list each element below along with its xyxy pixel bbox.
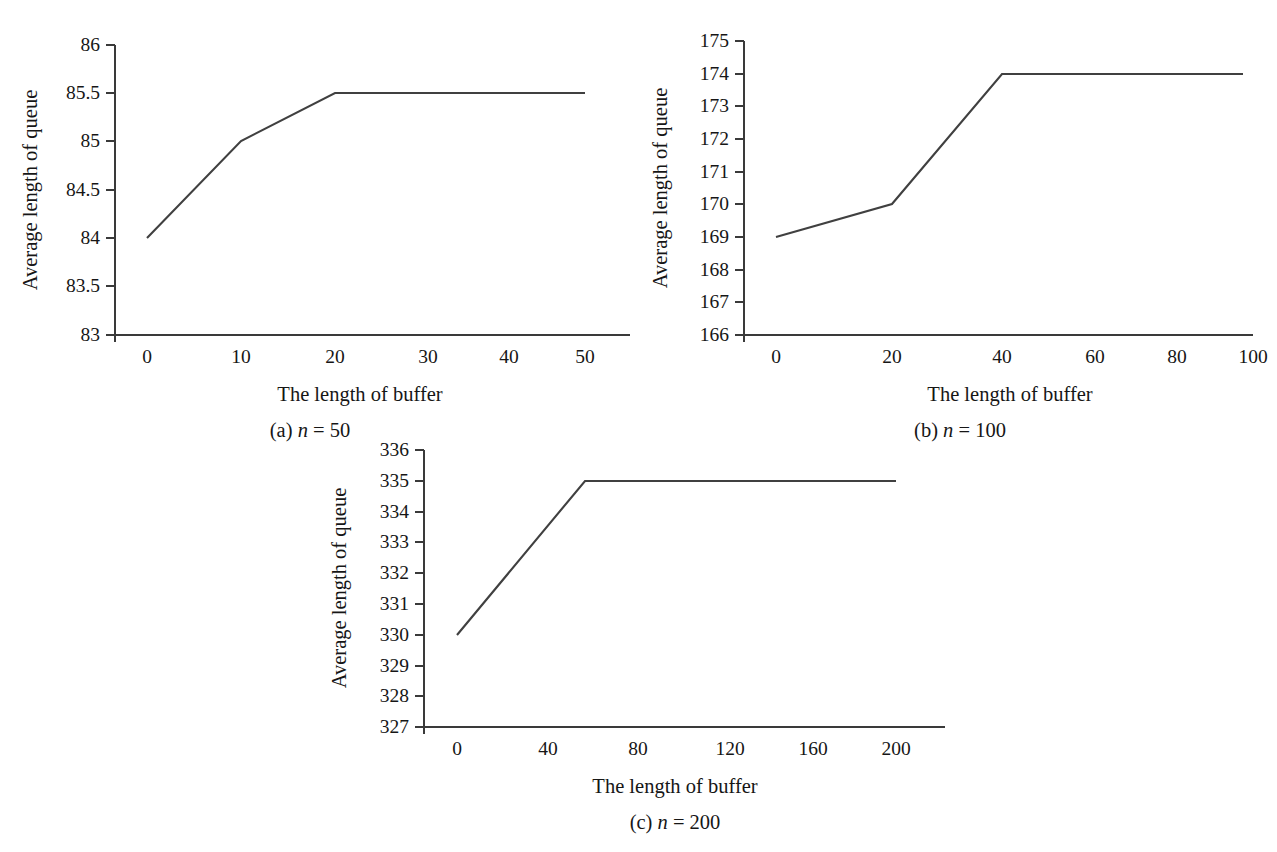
x-axis-title: The length of buffer bbox=[927, 383, 1092, 406]
x-tick-label: 40 bbox=[992, 347, 1012, 367]
y-axis-title: Average length of queue bbox=[19, 90, 42, 291]
caption-prefix: (c) bbox=[630, 811, 653, 833]
y-axis-ticks-a bbox=[106, 45, 115, 335]
y-tick-label: 167 bbox=[673, 292, 729, 312]
chart-panel-c: 336 335 334 333 332 331 330 329 328 327 … bbox=[310, 428, 970, 848]
caption-variable: n bbox=[298, 419, 308, 441]
caption-prefix: (a) bbox=[270, 419, 293, 441]
y-tick-label: 334 bbox=[353, 502, 409, 522]
y-tick-label: 169 bbox=[673, 227, 729, 247]
y-tick-label: 168 bbox=[673, 260, 729, 280]
y-tick-label: 175 bbox=[673, 31, 729, 51]
y-tick-label: 331 bbox=[353, 594, 409, 614]
x-axis-title: The length of buffer bbox=[592, 775, 757, 798]
y-tick-label: 83.5 bbox=[44, 276, 100, 296]
x-tick-label: 40 bbox=[538, 739, 558, 759]
x-tick-label: 0 bbox=[452, 739, 462, 759]
x-tick-label: 30 bbox=[418, 347, 438, 367]
x-tick-label: 0 bbox=[142, 347, 152, 367]
caption-value: 100 bbox=[975, 419, 1006, 441]
y-tick-label: 327 bbox=[353, 717, 409, 737]
y-tick-label: 85 bbox=[44, 131, 100, 151]
y-tick-label: 84 bbox=[44, 228, 100, 248]
x-tick-label: 80 bbox=[1167, 347, 1187, 367]
x-axis-title: The length of buffer bbox=[277, 383, 442, 406]
y-tick-label: 172 bbox=[673, 129, 729, 149]
data-line-a bbox=[147, 93, 585, 238]
y-tick-label: 86 bbox=[44, 35, 100, 55]
x-tick-label: 160 bbox=[798, 739, 827, 759]
y-tick-label: 332 bbox=[353, 563, 409, 583]
caption-value: 200 bbox=[690, 811, 721, 833]
x-tick-label: 120 bbox=[715, 739, 744, 759]
y-tick-label: 170 bbox=[673, 194, 729, 214]
y-tick-label: 329 bbox=[353, 656, 409, 676]
y-axis-ticks-b bbox=[735, 41, 744, 335]
x-tick-label: 20 bbox=[882, 347, 902, 367]
y-tick-label: 171 bbox=[673, 162, 729, 182]
panel-caption-c: (c) n = 200 bbox=[630, 811, 721, 834]
x-tick-label: 80 bbox=[628, 739, 648, 759]
y-tick-label: 83 bbox=[44, 325, 100, 345]
chart-panel-b: 175 174 173 172 171 170 169 168 167 166 … bbox=[640, 14, 1277, 414]
x-tick-label: 0 bbox=[771, 347, 781, 367]
y-tick-label: 333 bbox=[353, 532, 409, 552]
chart-panel-a: 86 85.5 85 84.5 84 83.5 83 0 10 20 30 40… bbox=[0, 14, 660, 414]
x-tick-label: 50 bbox=[575, 347, 595, 367]
y-tick-label: 174 bbox=[673, 64, 729, 84]
y-tick-label: 85.5 bbox=[44, 83, 100, 103]
y-tick-label: 328 bbox=[353, 686, 409, 706]
y-tick-label: 336 bbox=[353, 440, 409, 460]
y-axis-title: Average length of queue bbox=[649, 88, 672, 289]
y-axis-title: Average length of queue bbox=[328, 488, 351, 689]
caption-variable: n bbox=[658, 811, 668, 833]
y-tick-label: 173 bbox=[673, 96, 729, 116]
y-tick-label: 335 bbox=[353, 471, 409, 491]
data-line-b bbox=[776, 74, 1243, 237]
caption-equals: = bbox=[673, 811, 685, 833]
x-tick-label: 10 bbox=[231, 347, 251, 367]
x-tick-label: 60 bbox=[1085, 347, 1105, 367]
data-line-c bbox=[457, 481, 896, 635]
x-tick-label: 20 bbox=[325, 347, 345, 367]
y-tick-label: 166 bbox=[673, 325, 729, 345]
x-tick-label: 200 bbox=[881, 739, 910, 759]
y-tick-label: 84.5 bbox=[44, 180, 100, 200]
x-tick-label: 100 bbox=[1238, 347, 1267, 367]
y-axis-ticks-c bbox=[415, 450, 424, 727]
x-tick-label: 40 bbox=[499, 347, 519, 367]
y-tick-label: 330 bbox=[353, 625, 409, 645]
figure-three-line-charts: 86 85.5 85 84.5 84 83.5 83 0 10 20 30 40… bbox=[0, 0, 1277, 852]
